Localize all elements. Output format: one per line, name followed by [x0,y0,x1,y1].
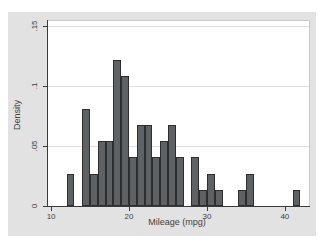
histogram-bar-14 [82,109,90,206]
histogram-bar-35 [246,174,254,206]
x-axis-line [47,206,310,207]
y-axis-title: Density [12,100,22,130]
chart-plot-area: 102030400.05.1.15 [47,20,310,207]
histogram-bar-26 [176,157,184,206]
histogram-bar-31 [215,190,223,206]
y-gridline-.1 [48,86,309,87]
histogram-bar-22 [145,125,153,206]
y-tick-0 [43,206,47,207]
histogram-bar-17 [106,141,114,206]
chart-graph-region: 102030400.05.1.15 Mileage (mpg) Density [8,12,316,236]
histogram-bar-29 [199,190,207,206]
histogram-bar-16 [98,141,106,206]
y-tick-.15 [43,26,47,27]
x-tick-10 [51,207,52,211]
histogram-bar-20 [129,157,137,206]
histogram-bar-41 [293,190,301,206]
x-tick-40 [285,207,286,211]
screenshot-page: 102030400.05.1.15 Mileage (mpg) Density [0,0,322,246]
y-tick-label-.05: .05 [30,140,39,151]
y-tick-label-0: 0 [30,204,39,208]
histogram-bar-25 [168,125,176,206]
histogram-bar-21 [137,125,145,206]
y-tick-label-.15: .15 [30,20,39,31]
histogram-bar-18 [113,60,121,206]
histogram-bar-23 [152,157,160,206]
x-tick-30 [207,207,208,211]
x-tick-20 [129,207,130,211]
histogram-bar-30 [207,174,215,206]
histogram-bar-15 [90,174,98,206]
x-tick-label-20: 20 [125,212,134,221]
y-gridline-.15 [48,26,309,27]
histogram-bar-12 [67,174,75,206]
y-axis-line [47,20,48,207]
x-tick-label-40: 40 [280,212,289,221]
histogram-bar-34 [238,190,246,206]
y-tick-label-.1: .1 [30,83,39,90]
x-axis-title: Mileage (mpg) [148,217,206,227]
histogram-bar-24 [160,141,168,206]
histogram-bar-19 [121,76,129,206]
y-tick-.05 [43,146,47,147]
y-tick-.1 [43,86,47,87]
x-tick-label-10: 10 [47,212,56,221]
histogram-bar-28 [191,157,199,206]
